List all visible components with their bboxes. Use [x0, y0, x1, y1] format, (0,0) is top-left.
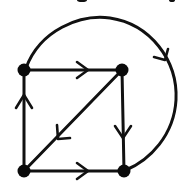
node-top-right	[116, 64, 129, 77]
edge-b-to-c	[24, 70, 122, 171]
directed-graph-diagram	[0, 0, 185, 185]
edge-b-to-d	[122, 70, 124, 171]
node-bottom-right	[118, 165, 131, 178]
node-top-left	[18, 64, 31, 77]
cropped-text-fragments	[77, 0, 175, 2]
node-bottom-left	[18, 165, 31, 178]
